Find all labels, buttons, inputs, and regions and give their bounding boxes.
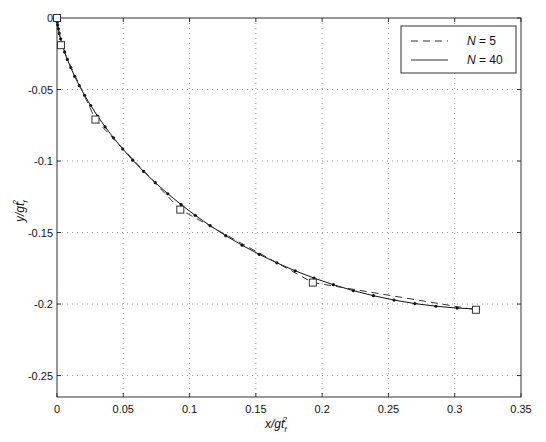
series-n5-square-marker: [92, 116, 99, 123]
y-tick-label: -0.25: [28, 370, 53, 382]
x-tick-label: 0.15: [245, 403, 266, 415]
legend-label-n5: N = 5: [467, 34, 496, 48]
y-axis-label: y/gtf2: [11, 199, 30, 223]
series-n5-square-marker: [309, 279, 316, 286]
series-n5-square-marker: [57, 42, 64, 49]
y-tick-label: -0.05: [28, 84, 53, 96]
series-n40-marker: [166, 192, 169, 195]
x-tick-label: 0.05: [113, 403, 134, 415]
series-n40-marker: [413, 302, 416, 305]
series-n40-marker: [59, 37, 62, 40]
x-axis-label: x/gtf2: [264, 415, 288, 434]
plot-frame: [57, 18, 521, 397]
series-n40-marker: [83, 94, 86, 97]
series-n5-square-marker: [54, 15, 61, 22]
y-tick-label: -0.15: [28, 227, 53, 239]
y-tick-label: -0.2: [34, 298, 53, 310]
x-tick-label: 0.3: [447, 403, 462, 415]
series-n40-marker: [89, 104, 92, 107]
x-tick-label: 0.2: [314, 403, 329, 415]
series-n40-marker: [224, 234, 227, 237]
series-n40-marker: [332, 283, 335, 286]
series-n5-square-marker: [472, 306, 479, 313]
series-n5-square-marker: [177, 206, 184, 213]
y-tick-label: 0: [47, 12, 53, 24]
chart: 00.050.10.150.20.250.30.350-0.05-0.1-0.1…: [0, 0, 546, 442]
legend-label-n40: N = 40: [467, 53, 503, 67]
series-n40-marker: [57, 27, 60, 30]
x-tick-label: 0.35: [510, 403, 531, 415]
grid-lines: [57, 18, 521, 397]
x-tick-label: 0.1: [182, 403, 197, 415]
x-tick-label: 0.25: [378, 403, 399, 415]
series-n40-marker: [392, 298, 395, 301]
series-n40-marker: [131, 159, 134, 162]
series-n40-marker: [434, 305, 437, 308]
x-tick-label: 0: [54, 403, 60, 415]
series-n40-marker: [372, 294, 375, 297]
legend: N = 5 N = 40: [401, 26, 516, 73]
y-tick-label: -0.1: [34, 155, 53, 167]
series-n40-marker: [194, 214, 197, 217]
